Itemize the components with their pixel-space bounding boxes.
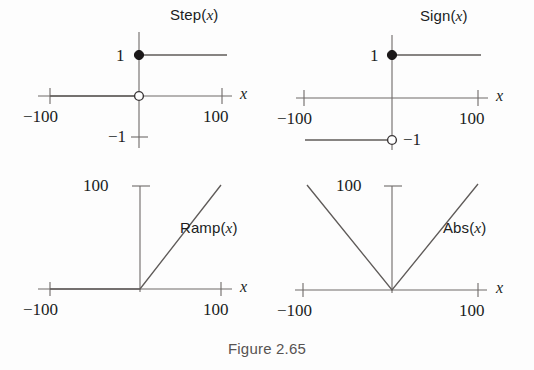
- step-ylabel-neg-one: −1: [108, 128, 126, 145]
- step-marker-closed: [134, 50, 143, 59]
- abs-axis-label-x: x: [496, 280, 503, 296]
- plot-ramp: [38, 185, 232, 296]
- sign-marker-open: [388, 136, 397, 145]
- abs-ylabel-100: 100: [336, 177, 362, 194]
- sign-xlabel-neg-100: −100: [277, 110, 312, 127]
- step-marker-open: [135, 92, 144, 101]
- sign-xlabel-100: 100: [459, 110, 485, 127]
- ramp-title-label: Ramp(x): [180, 220, 238, 236]
- ramp-axis-label-x: x: [240, 279, 247, 295]
- step-axis-label-x: x: [240, 86, 247, 102]
- sign-title-label: Sign(x): [420, 8, 468, 24]
- ramp-ylabel-100: 100: [83, 177, 109, 194]
- abs-xlabel-neg-100: −100: [277, 302, 312, 319]
- step-xlabel-neg-100: −100: [23, 108, 58, 125]
- plot-sign: [296, 35, 488, 150]
- sign-ylabel-one: 1: [370, 47, 379, 64]
- step-ylabel-one: 1: [116, 47, 125, 64]
- abs-title-label: Abs(x): [443, 220, 486, 236]
- plots-graphic: [0, 0, 534, 370]
- plot-step: [38, 32, 232, 148]
- plot-abs: [295, 184, 487, 297]
- ramp-xlabel-neg-100: −100: [23, 301, 58, 318]
- sign-ylabel-neg-one: −1: [403, 131, 421, 148]
- sign-axis-label-x: x: [496, 88, 503, 104]
- figure-caption: Figure 2.65: [0, 340, 534, 357]
- step-title-label: Step(x): [170, 7, 218, 23]
- step-xlabel-100: 100: [203, 108, 229, 125]
- ramp-xlabel-100: 100: [203, 301, 229, 318]
- figure-container: Step(x) 1 −1 −100 100 x Sign(x) 1 −1 −10…: [0, 0, 534, 370]
- ramp-curve: [50, 185, 221, 289]
- sign-marker-closed: [387, 50, 396, 59]
- abs-xlabel-100: 100: [459, 302, 485, 319]
